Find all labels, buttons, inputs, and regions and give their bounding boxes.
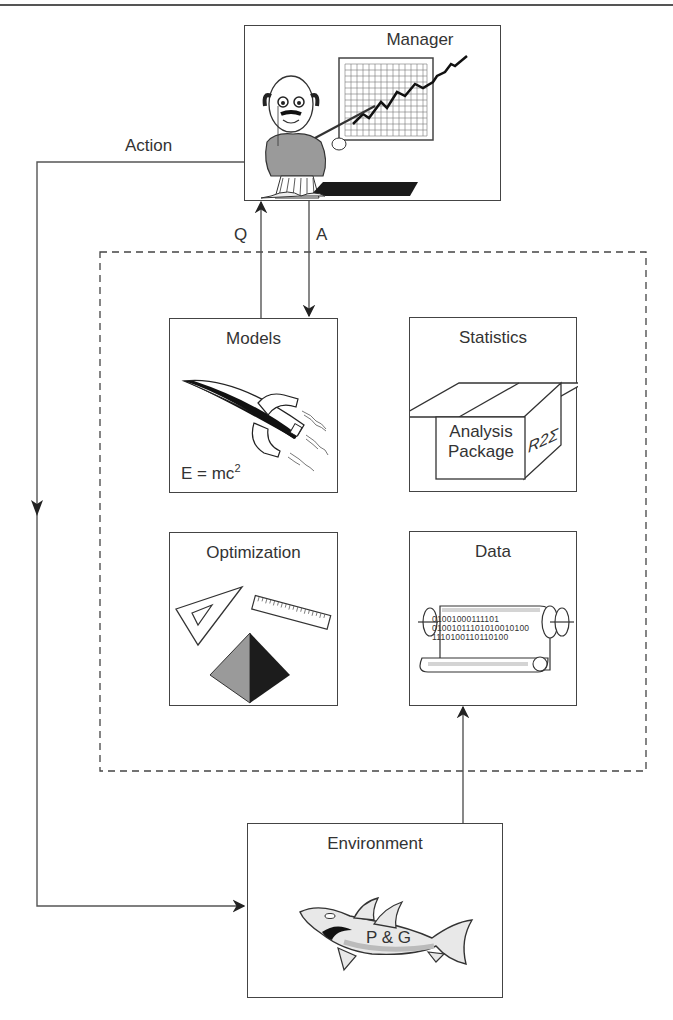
optimization-node[interactable]: Optimization <box>169 532 338 706</box>
box-package-icon <box>410 318 578 493</box>
q-label: Q <box>234 225 247 245</box>
manager-presenting-chart-icon <box>245 26 502 202</box>
shark-label: P & G <box>366 928 411 948</box>
environment-node[interactable]: Environment P & G <box>247 823 503 998</box>
binary-text: 01001000111101 01001011101010010100 1110… <box>432 615 529 642</box>
geometry-tools-icon <box>170 533 339 707</box>
models-equation: E = mc2 <box>181 462 241 484</box>
manager-node[interactable]: Manager <box>244 25 501 201</box>
statistics-node[interactable]: Statistics Analysis Package R2Σ <box>409 317 577 492</box>
shark-icon <box>248 824 504 999</box>
a-label: A <box>316 225 327 245</box>
package-label: Analysis Package <box>441 422 521 462</box>
models-node[interactable]: Models E = mc2 <box>169 318 338 493</box>
action-label: Action <box>125 136 172 156</box>
data-node[interactable]: Data 01001000111101 01001011101010010100… <box>409 531 577 706</box>
